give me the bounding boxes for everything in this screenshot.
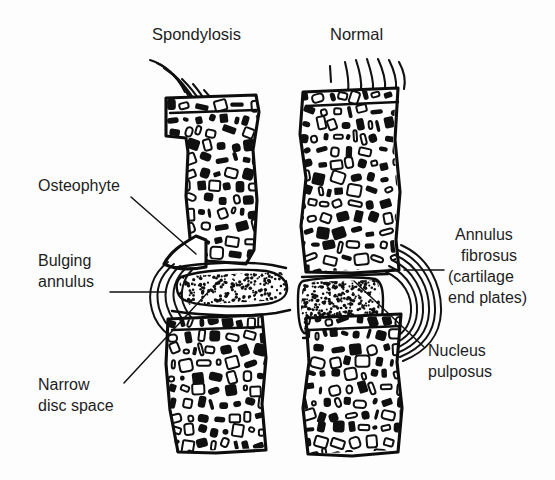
- label-nucleus-pulposus-line-1: Nucleus: [428, 342, 486, 359]
- label-osteophyte-line-1: Osteophyte: [38, 177, 120, 194]
- label-nucleus-pulposus-line-2: pulposus: [428, 363, 492, 380]
- label-narrow-disc-space-line-1: Narrow: [38, 376, 90, 393]
- title-normal: Normal: [330, 25, 383, 43]
- label-annulus-fibrosus-line-3: (cartilage: [448, 268, 514, 285]
- label-annulus-fibrosus-line-2: fibrosus: [461, 247, 517, 264]
- label-osteophyte: Osteophyte: [38, 177, 120, 194]
- spondylosis-vs-normal-diagram: Spondylosis Normal: [0, 0, 555, 480]
- label-annulus-fibrosus-line-4: end plates): [448, 289, 527, 306]
- label-bulging-annulus-line-2: annulus: [38, 273, 94, 290]
- label-annulus-fibrosus-line-1: Annulus: [455, 226, 513, 243]
- label-bulging-annulus-line-1: Bulging: [38, 252, 91, 269]
- label-narrow-disc-space-line-2: disc space: [38, 397, 114, 414]
- title-spondylosis: Spondylosis: [152, 25, 241, 43]
- figure-root: Spondylosis Normal: [0, 0, 555, 480]
